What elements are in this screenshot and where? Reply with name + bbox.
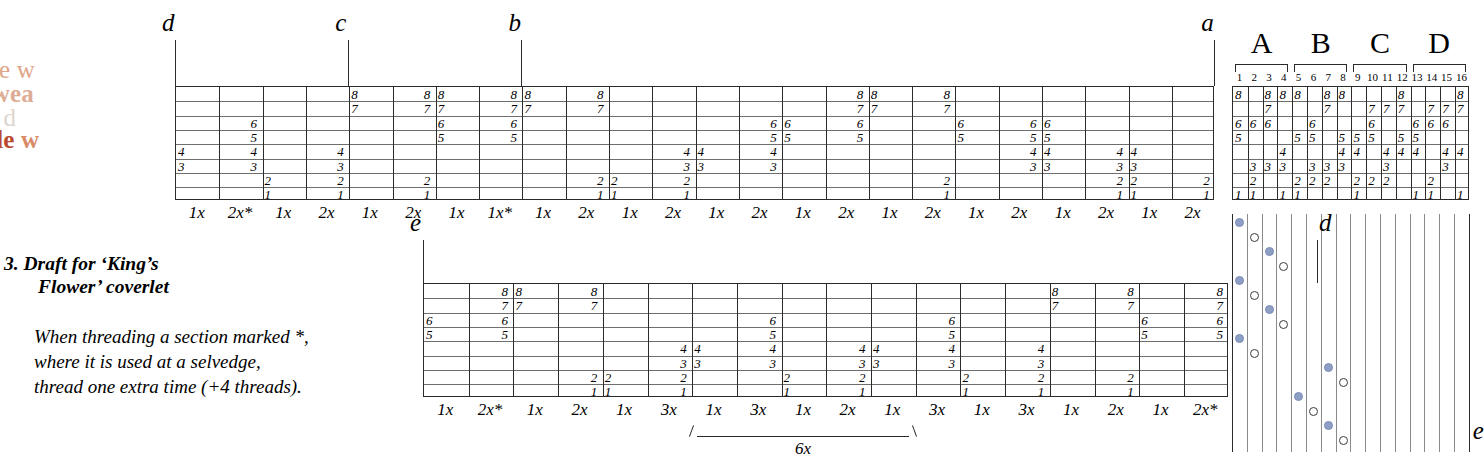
draft-cell-number: 4 [873,342,880,355]
tieup-cell-number: 7 [1442,102,1449,115]
draft-cell-number: 6 [426,314,433,327]
draft-cell-number: 4 [1044,145,1051,158]
grid-vline [558,284,559,396]
draft-cell-number: 6 [770,117,777,130]
grid-vline [916,284,917,396]
repeat-label: 1x [262,204,305,221]
tieup-hline [1233,144,1468,145]
tieup-cell-number: 2 [1324,174,1331,187]
repeat-label: 1x [435,204,478,221]
tieup-cell-number: 4 [1353,145,1360,158]
draft-cell-number: 3 [251,160,258,173]
draft-cell-number: 1 [784,385,791,398]
repeat-label: 2x [998,204,1041,221]
draft-cell-number: 8 [871,88,878,101]
draft-cell-number: 1 [1203,188,1210,201]
repeat-label: 1x [868,204,911,221]
draft-cell-number: 5 [770,328,777,341]
grid-hline [424,313,1227,314]
treadling-vline [1424,214,1425,452]
tieup-cell-number: 4 [1413,145,1420,158]
tieup-cell-number: 6 [1413,117,1420,130]
draft-cell-number: 7 [857,102,864,115]
tieup-group-bracket [1413,64,1466,72]
tieup-column-number: 9 [1350,72,1365,83]
draft-cell-number: 2 [1131,174,1138,187]
draft-cell-number: 6 [1030,117,1037,130]
draft-cell-number: 6 [770,314,777,327]
treadling-dot-filled [1265,305,1274,314]
tieup-group-bracket [1353,64,1406,72]
repeat-label: 2x [825,204,868,221]
grid-hline [176,159,1213,160]
draft-cell-number: 1 [265,188,272,201]
repeat-label: 2x [1094,401,1139,418]
draft-cell-number: 3 [1117,160,1124,173]
marker-label: c [335,10,346,35]
tieup-cell-number: 1 [1457,188,1464,201]
tieup-cell-number: 5 [1353,131,1360,144]
repeat-label: 2x [825,401,870,418]
grid-vline [513,284,514,396]
draft-cell-number: 1 [611,188,618,201]
treadling-vline [1365,214,1366,452]
draft-cell-number: 8 [1127,285,1134,298]
draft-cell-number: 2 [265,174,272,187]
draft-cell-number: 1 [337,188,344,201]
tieup-vline [1411,87,1412,199]
tieup-cell-number: 3 [1442,160,1449,173]
repeat-label: 2x [651,204,694,221]
treadling-left-edge [1232,214,1233,452]
draft-cell-number: 2 [1203,174,1210,187]
draft-cell-number: 3 [873,357,880,370]
tieup-vline [1263,87,1264,199]
marker-label: d [1319,210,1332,235]
grid-vline [603,284,604,396]
grid-hline [424,370,1227,371]
draft-cell-number: 7 [424,102,431,115]
treadling-dot-open [1339,378,1348,387]
draft-cell-number: 8 [515,285,522,298]
tieup-column-number: 11 [1380,72,1395,83]
draft-cell-number: 4 [337,145,344,158]
tieup-cell-number: 4 [1279,145,1286,158]
repeat-label: 2x* [218,204,261,221]
treadling-vline [1247,214,1248,452]
repeat-label: 3x [1004,401,1049,418]
figure-note-line-1: When threading a section marked *, [34,324,364,349]
tieup-cell-number: 3 [1309,160,1316,173]
tieup-column-number: 4 [1276,72,1291,83]
draft-cell-number: 5 [510,131,517,144]
grid-hline [424,298,1227,299]
draft-cell-number: 3 [948,357,955,370]
tieup-column-number: 8 [1336,72,1351,83]
draft-cell-number: 2 [784,371,791,384]
tieup-cell-number: 2 [1309,174,1316,187]
tieup-cell-number: 1 [1353,188,1360,201]
tieup-cell-number: 2 [1383,174,1390,187]
grid-vline [1085,87,1086,199]
tieup-column-number: 15 [1439,72,1454,83]
draft-cell-number: 6 [857,117,864,130]
grid-vline [782,284,783,396]
draft-cell-number: 6 [948,314,955,327]
draft-cell-number: 5 [1044,131,1051,144]
draft-cell-number: 5 [426,328,433,341]
draft-cell-number: 1 [962,385,969,398]
tieup-cell-number: 1 [1235,188,1242,201]
draft-cell-number: 6 [957,117,964,130]
tieup-cell-number: 8 [1339,88,1346,101]
treadling-dot-open [1309,407,1318,416]
grid-hline [424,356,1227,357]
tieup-cell-number: 1 [1294,188,1301,201]
tieup-vline [1351,87,1352,199]
treadling-dot-open [1279,262,1288,271]
draft-cell-number: 2 [337,174,344,187]
figure-note-line-3: thread one extra time (+4 threads). [34,374,364,399]
treadling-vline [1454,214,1455,452]
draft-cell-number: 4 [680,342,687,355]
figure-title: 3. Draft for ‘King’s Flower’ coverlet [4,252,334,298]
tieup-cells: 8651632187638431852165328732854354217652… [1232,86,1469,200]
draft-cell-number: 6 [1044,117,1051,130]
draft-cell-number: 3 [1044,160,1051,173]
